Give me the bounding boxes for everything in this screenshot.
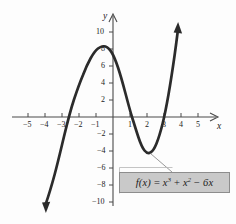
x-tick-label: 2 [145, 121, 149, 129]
y-axis-label: y [103, 12, 107, 22]
y-axis [109, 14, 117, 206]
curve-arrow-up-right [174, 22, 183, 33]
y-tick-label: 8 [101, 45, 105, 53]
x-axis-label: x [217, 122, 221, 132]
x-tick-label: 5 [196, 121, 200, 129]
y-tick-label: −4 [97, 147, 106, 155]
function-graph-figure: −5 −4 −3 −2 −1 1 2 3 4 5 10 8 6 4 2 −2 −… [0, 0, 236, 224]
y-tick-label: −10 [92, 198, 105, 206]
y-tick-label: −6 [97, 164, 106, 172]
y-tick-label: 2 [101, 96, 105, 104]
x-tick-label: −4 [40, 121, 49, 129]
x-tick-label: −2 [74, 121, 83, 129]
function-formula-box: f(x) = x3 + x2 − 6x [119, 172, 230, 193]
y-tick-label: −2 [97, 130, 106, 138]
y-tick-label: 6 [101, 62, 105, 70]
function-formula-text: f(x) = x3 + x2 − 6x [136, 177, 214, 188]
x-tick-label: −5 [23, 121, 32, 129]
x-tick-label: 3 [162, 121, 166, 129]
x-tick-label: −3 [57, 121, 66, 129]
y-tick-label: −8 [97, 181, 106, 189]
y-tick-label: 10 [96, 28, 104, 36]
x-tick-label: −1 [91, 121, 100, 129]
x-tick-label: 1 [128, 121, 132, 129]
y-tick-label: 4 [101, 79, 105, 87]
x-tick-label: 4 [179, 121, 183, 129]
